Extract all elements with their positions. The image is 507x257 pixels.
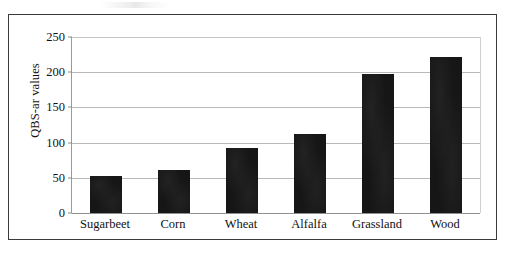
x-tick-label-corn: Corn — [161, 217, 186, 232]
y-tick-label-50: 50 — [53, 170, 66, 185]
x-tick-label-sugarbeet: Sugarbeet — [80, 217, 130, 232]
y-tick-label-250: 250 — [46, 30, 65, 45]
gridline-0 — [72, 213, 480, 214]
plot-area: 050100150200250 — [71, 37, 481, 213]
x-tick-label-alfalfa: Alfalfa — [291, 217, 326, 232]
y-axis-title: QBS-ar values — [28, 31, 43, 171]
x-tick-label-wheat: Wheat — [225, 217, 258, 232]
scan-artifact — [100, 2, 170, 8]
bar-alfalfa — [294, 134, 325, 213]
y-tick-label-100: 100 — [46, 135, 65, 150]
bars-layer — [72, 37, 480, 213]
x-axis-category-labels: SugarbeetCornWheatAlfalfaGrasslandWood — [71, 217, 479, 239]
y-tick-label-200: 200 — [46, 65, 65, 80]
bar-sugarbeet — [90, 176, 121, 213]
x-tick-label-grassland: Grassland — [352, 217, 402, 232]
bar-wheat — [226, 148, 257, 213]
chart-frame: QBS-ar values 050100150200250 SugarbeetC… — [8, 14, 497, 240]
bar-corn — [158, 170, 189, 213]
y-tick-label-0: 0 — [59, 206, 65, 221]
bar-wood — [430, 57, 461, 213]
x-tick-label-wood: Wood — [430, 217, 460, 232]
bar-grassland — [362, 74, 393, 213]
chart-inner: QBS-ar values 050100150200250 SugarbeetC… — [9, 15, 496, 239]
y-tick-label-150: 150 — [46, 100, 65, 115]
